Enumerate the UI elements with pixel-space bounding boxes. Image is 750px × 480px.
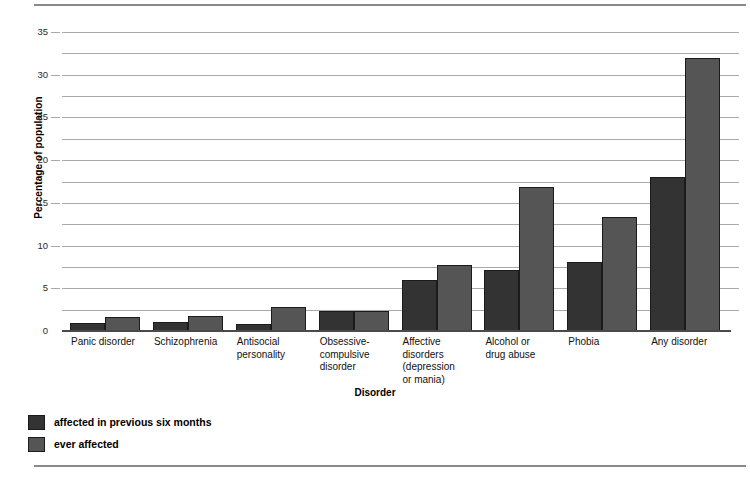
plot-area <box>62 32 725 331</box>
x-axis-tick-label: Affectivedisorders(depressionor mania) <box>403 336 492 386</box>
y-axis-tick-label: 35 <box>14 27 48 37</box>
gridline-tick-stub <box>725 117 739 118</box>
x-axis-tick-label: Schizophrenia <box>154 336 243 349</box>
x-axis-tick-label: Any disorder <box>651 336 740 349</box>
y-axis-tick-label: 15 <box>14 198 48 208</box>
legend-item: ever affected <box>28 433 212 455</box>
legend: affected in previous six monthsever affe… <box>28 411 212 455</box>
x-axis-tick-label-line: Obsessive- <box>320 336 409 349</box>
gridline <box>62 203 725 204</box>
bar <box>188 316 223 331</box>
x-axis-tick-label-line: Schizophrenia <box>154 336 243 349</box>
x-axis-tick-label-line: personality <box>237 349 326 362</box>
gridline <box>62 96 725 97</box>
x-axis-tick-label: Obsessive-compulsivedisorder <box>320 336 409 374</box>
y-axis-tick-mark <box>51 75 60 76</box>
bar <box>685 58 720 331</box>
gridline-tick-stub <box>725 310 739 311</box>
gridline-tick-stub <box>725 182 739 183</box>
gridline-tick-stub <box>725 32 739 33</box>
y-axis-tick-label: 25 <box>14 112 48 122</box>
gridline-tick-stub <box>725 288 739 289</box>
legend-swatch <box>28 437 45 452</box>
bar <box>519 187 554 331</box>
y-axis-tick-mark <box>51 160 60 161</box>
x-axis-tick-label-line: Alcohol or <box>485 336 574 349</box>
gridline <box>62 139 725 140</box>
gridline-tick-stub <box>725 75 739 76</box>
bar <box>567 262 602 331</box>
bar <box>602 217 637 331</box>
bar <box>437 265 472 331</box>
y-axis-tick-label: 0 <box>14 326 48 336</box>
x-axis-tick-label: Alcohol ordrug abuse <box>485 336 574 361</box>
gridline-tick-stub <box>725 203 739 204</box>
y-axis-tick-mark <box>51 246 60 247</box>
gridline-tick-stub <box>725 224 739 225</box>
x-axis-tick-label: Phobia <box>568 336 657 349</box>
legend-item: affected in previous six months <box>28 411 212 433</box>
bar-chart-figure: Percentage of population Disorder affect… <box>0 0 750 480</box>
bar <box>354 311 389 332</box>
gridline <box>62 53 725 54</box>
x-axis-tick-label: Panic disorder <box>71 336 160 349</box>
gridline <box>62 117 725 118</box>
legend-swatch <box>28 415 45 430</box>
x-axis-tick-label-line: or mania) <box>403 374 492 387</box>
x-axis-tick-label-line: Panic disorder <box>71 336 160 349</box>
bar <box>319 311 354 332</box>
gridline-tick-stub <box>725 160 739 161</box>
gridline-tick-stub <box>725 267 739 268</box>
x-axis-tick-label-line: Affective <box>403 336 492 349</box>
bar <box>271 307 306 331</box>
bar <box>105 317 140 331</box>
gridline <box>62 75 725 76</box>
gridline-tick-stub <box>725 246 739 247</box>
y-axis-tick-mark <box>51 117 60 118</box>
x-axis-tick-label-line: compulsive <box>320 349 409 362</box>
x-axis-tick-label-line: Antisocial <box>237 336 326 349</box>
x-axis-tick-label-line: Phobia <box>568 336 657 349</box>
x-axis-baseline <box>62 330 731 332</box>
gridline <box>62 160 725 161</box>
y-axis-tick-label: 20 <box>14 155 48 165</box>
y-axis-tick-label: 10 <box>14 241 48 251</box>
x-axis-tick-label-line: drug abuse <box>485 349 574 362</box>
bar <box>484 270 519 332</box>
gridline <box>62 182 725 183</box>
legend-label: affected in previous six months <box>54 416 212 428</box>
y-axis-tick-label: 5 <box>14 283 48 293</box>
gridline-tick-stub <box>725 53 739 54</box>
y-axis-tick-mark <box>51 203 60 204</box>
x-axis-tick-label-line: disorder <box>320 361 409 374</box>
bar <box>402 280 437 331</box>
x-axis-tick-label-line: (depression <box>403 361 492 374</box>
legend-label: ever affected <box>54 438 119 450</box>
x-axis-title: Disorder <box>0 387 750 398</box>
bar <box>650 177 685 331</box>
top-divider-rule <box>34 4 746 6</box>
y-axis-tick-mark <box>51 32 60 33</box>
y-axis-tick-label: 30 <box>14 70 48 80</box>
y-axis-tick-mark <box>51 288 60 289</box>
gridline <box>62 32 725 33</box>
bottom-divider-rule <box>34 465 746 467</box>
x-axis-tick-label-line: Any disorder <box>651 336 740 349</box>
x-axis-tick-label-line: disorders <box>403 349 492 362</box>
gridline-tick-stub <box>725 139 739 140</box>
gridline-tick-stub <box>725 96 739 97</box>
x-axis-tick-label: Antisocialpersonality <box>237 336 326 361</box>
